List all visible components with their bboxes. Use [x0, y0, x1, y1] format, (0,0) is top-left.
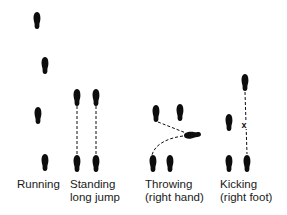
- footprint-icon: [150, 155, 157, 172]
- standing-long-jump-footprints: [74, 89, 100, 172]
- footprint-icon: [93, 89, 100, 106]
- kick-marker: x: [241, 120, 246, 130]
- footprint-icon: [74, 155, 81, 172]
- footprint-icon: [244, 155, 251, 172]
- footprint-icon: [226, 114, 233, 131]
- running-label: Running: [17, 178, 60, 191]
- footprint-icon: [177, 104, 184, 121]
- throw-arc: [152, 136, 183, 155]
- footprint-icon: [74, 89, 81, 106]
- kicking-footprints: x: [226, 74, 251, 172]
- footprint-icon: [42, 57, 49, 74]
- footprint-icon: [42, 154, 49, 171]
- kicking-label: Kicking: [220, 178, 257, 191]
- footprint-icon: [34, 12, 41, 29]
- footprint-icon: [153, 105, 160, 122]
- throwing-label: Throwing: [145, 178, 192, 191]
- throw-path: [158, 122, 186, 133]
- standing-long-jump-label-line2: long jump: [70, 191, 120, 204]
- footprint-icon: [226, 155, 233, 172]
- kicking-label-line2: (right foot): [220, 191, 272, 204]
- throwing-label-line2: (right hand): [145, 191, 204, 204]
- footprint-icon: [242, 74, 249, 91]
- footprint-icon: [167, 155, 174, 172]
- footprint-icon: [93, 155, 100, 172]
- footprint-diagram: x Running Standing long jump Throwing (r…: [0, 0, 287, 215]
- throwing-footprints: [150, 104, 202, 172]
- footprint-icon: [35, 107, 42, 124]
- running-footprints: [34, 12, 49, 171]
- hand-icon: [184, 131, 202, 139]
- standing-long-jump-label: Standing: [70, 178, 115, 191]
